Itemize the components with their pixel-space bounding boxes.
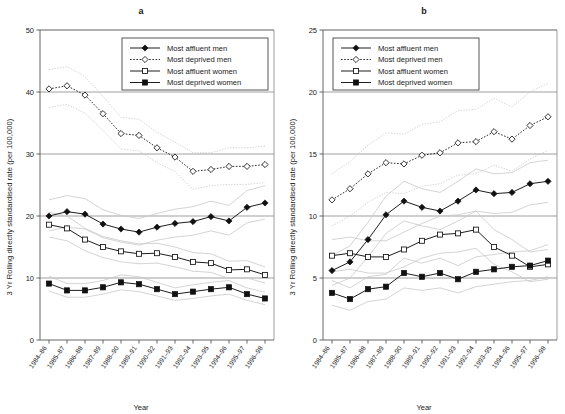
data-point	[329, 290, 334, 295]
legend-marker-open-square	[354, 69, 359, 74]
confidence-band	[332, 277, 548, 310]
legend-label: Most deprived women	[378, 78, 452, 87]
data-point	[46, 86, 52, 92]
data-point	[172, 220, 178, 226]
data-point	[527, 122, 533, 128]
legend-marker-filled-square	[353, 80, 358, 85]
data-point	[208, 214, 214, 220]
data-point	[226, 285, 231, 290]
data-point	[190, 289, 195, 294]
data-point	[118, 280, 123, 285]
data-point	[401, 161, 407, 167]
data-point	[491, 191, 497, 197]
series-most-deprived-men	[46, 83, 268, 175]
data-point	[455, 140, 461, 146]
legend: Most affluent menMost deprived menMost a…	[333, 38, 479, 90]
data-point	[136, 282, 141, 287]
data-point	[226, 163, 232, 169]
data-point	[64, 209, 70, 215]
data-point	[384, 254, 389, 259]
data-point	[473, 139, 479, 145]
data-point	[263, 272, 268, 277]
data-point	[155, 251, 160, 256]
data-point	[154, 145, 160, 151]
legend-label: Most affluent men	[378, 44, 438, 53]
data-point	[420, 238, 425, 243]
legend-marker-filled-square	[142, 80, 147, 85]
panel-b-plot: 05101520251984–861985–871986–881987–8919…	[283, 0, 565, 414]
legend-label: Most affluent women	[167, 67, 237, 76]
data-point	[65, 226, 70, 231]
data-point	[329, 267, 335, 273]
data-point	[348, 251, 353, 256]
data-point	[366, 254, 371, 259]
y-tick-label: 10	[309, 212, 317, 221]
data-point	[47, 222, 52, 227]
data-point	[208, 166, 214, 172]
data-point	[118, 226, 124, 232]
y-tick-label: 20	[309, 88, 317, 97]
data-point	[209, 261, 214, 266]
confidence-band	[332, 248, 548, 281]
series-most-affluent-men	[46, 200, 268, 235]
y-tick-label: 30	[26, 150, 34, 159]
data-point	[491, 129, 497, 135]
data-point	[227, 267, 232, 272]
data-point	[262, 200, 268, 206]
data-point	[456, 231, 461, 236]
data-point	[244, 163, 250, 169]
confidence-band	[332, 83, 548, 174]
series-line	[332, 117, 548, 200]
legend-marker-open-square	[143, 69, 148, 74]
data-point	[136, 229, 142, 235]
confidence-band	[49, 212, 265, 267]
legend: Most affluent menMost deprived menMost a…	[122, 38, 268, 90]
data-point	[190, 218, 196, 224]
panel-b-x-axis-label: Year	[283, 403, 565, 412]
data-point	[437, 208, 443, 214]
data-point	[46, 281, 51, 286]
data-point	[437, 150, 443, 156]
legend-label: Most affluent women	[378, 67, 448, 76]
data-point	[545, 178, 551, 184]
data-point	[510, 253, 515, 258]
data-point	[401, 270, 406, 275]
confidence-band	[49, 237, 265, 283]
data-point	[83, 237, 88, 242]
data-point	[509, 264, 514, 269]
x-tick-label: 1996–98	[526, 344, 547, 369]
y-tick-label: 10	[26, 274, 34, 283]
y-tick-label: 15	[309, 150, 317, 159]
figure-container: a 3 Yr Rolling directly standardised rat…	[0, 0, 565, 414]
data-point	[191, 259, 196, 264]
data-point	[245, 267, 250, 272]
data-point	[437, 270, 442, 275]
data-point	[82, 288, 87, 293]
series-line	[332, 261, 548, 299]
data-point	[492, 245, 497, 250]
data-point	[64, 83, 70, 89]
data-point	[154, 224, 160, 230]
data-point	[365, 287, 370, 292]
data-point	[455, 277, 460, 282]
data-point	[419, 204, 425, 210]
chart-panel-a: a 3 Yr Rolling directly standardised rat…	[0, 0, 282, 414]
panel-a-plot: 010203040501984–861985–871986–881987–891…	[0, 0, 282, 414]
data-point	[383, 160, 389, 166]
data-point	[64, 288, 69, 293]
legend-label: Most deprived men	[167, 55, 232, 64]
data-point	[455, 198, 461, 204]
data-point	[82, 92, 88, 98]
data-point	[172, 292, 177, 297]
data-point	[119, 249, 124, 254]
data-point	[509, 136, 515, 142]
y-tick-label: 0	[313, 336, 317, 345]
data-point	[46, 213, 52, 219]
data-point	[347, 186, 353, 192]
confidence-bands	[49, 67, 265, 305]
data-point	[545, 114, 551, 120]
data-point	[329, 197, 335, 203]
data-point	[365, 171, 371, 177]
data-point	[173, 254, 178, 259]
data-point	[402, 247, 407, 252]
